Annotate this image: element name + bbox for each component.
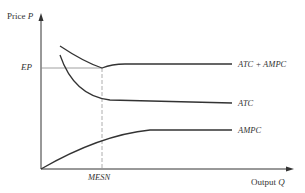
x-axis-arrow-icon bbox=[286, 167, 294, 172]
atc-plus-ampc-label: ATC + AMPC bbox=[238, 59, 286, 69]
mesn-label: MESN bbox=[88, 172, 110, 182]
ampc-curve bbox=[41, 130, 232, 169]
x-axis-label-text: Output bbox=[251, 177, 276, 187]
x-axis-label-symbol: Q bbox=[278, 177, 285, 187]
atc-label: ATC bbox=[238, 98, 253, 108]
y-axis-label-symbol: P bbox=[28, 11, 34, 21]
y-axis-label-text: Price bbox=[7, 11, 26, 21]
x-axis-label: Output Q bbox=[251, 177, 285, 187]
atc-plus-ampc-curve bbox=[60, 46, 232, 68]
ampc-label: AMPC bbox=[238, 125, 261, 135]
ep-label: EP bbox=[21, 62, 32, 72]
atc-curve bbox=[60, 55, 232, 103]
cost-curve-diagram bbox=[0, 0, 305, 193]
y-axis-arrow-icon bbox=[39, 13, 44, 21]
y-axis-label: Price P bbox=[7, 11, 33, 21]
